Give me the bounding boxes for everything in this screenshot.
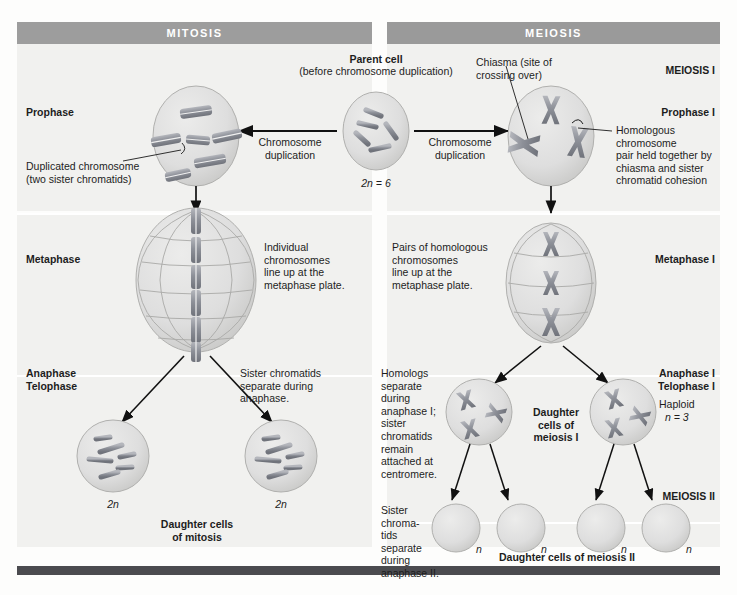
homologous-pair-callout: Homologous chromosome pair held together… [616,124,728,187]
mitosis-daughter-caption: Daughter cells of mitosis [122,518,272,543]
mitosis-prophase-label: Prophase [26,106,74,119]
meiosis1-daughter-caption: Daughter cells of meiosis I [518,406,594,444]
mitosis-metaphase-note: Individual chromosomes line up at the me… [264,241,364,291]
mitosis-anaphase-note: Sister chromatids separate during anapha… [240,367,350,405]
meiosis2-note: Sister chroma- tids separate during anap… [381,504,439,580]
parent-cell-subtitle: (before chromosome duplication) [276,65,476,78]
parent-cell-title: Parent cell [286,53,466,66]
meiosis2-ploidy-1: n [476,543,482,556]
meiosis-metaphase1-note: Pairs of homologous chromosomes line up … [392,241,502,291]
duplication-label-left: Chromosome duplication [248,136,332,161]
meiosis-anaphase1-note: Homologs separate during anaphase I; sis… [381,367,443,480]
haploid-ploidy: n = 3 [665,411,689,424]
diagram-canvas: MITOSIS MEIOSIS [0,0,737,595]
mitosis-metaphase-label: Metaphase [26,253,80,266]
meiosis-anaphase1-label: Anaphase I Telophase I [600,367,715,392]
meiosis-metaphase1-label: Metaphase I [600,253,715,266]
parent-cell-ploidy: 2n = 6 [336,177,416,190]
mitosis-anaphase-label: Anaphase Telophase [26,367,116,392]
meiosis2-ploidy-3: n [621,543,627,556]
chiasma-callout: Chiasma (site of crossing over) [476,56,586,81]
column-header-mitosis: MITOSIS [17,22,372,44]
mitosis-daughter-ploidy-right: 2n [256,498,306,511]
mitosis-metaphase-band [17,213,372,375]
duplication-label-right: Chromosome duplication [416,136,504,161]
meiosis-prophase1-label: Prophase I [600,106,715,119]
duplicated-chromosome-callout: Duplicated chromosome (two sister chroma… [26,160,161,185]
meiosis2-ploidy-4: n [686,543,692,556]
meiosis-metaphase-band [387,213,720,375]
meiosis-one-section-label: MEIOSIS I [600,64,715,77]
meiosis-two-section-label: MEIOSIS II [600,490,715,503]
meiosis2-daughter-caption: Daughter cells of meiosis II [462,551,672,564]
haploid-label: Haploid [659,398,695,411]
meiosis2-ploidy-2: n [541,543,547,556]
footer-rule [17,566,720,575]
column-header-meiosis: MEIOSIS [387,22,720,44]
mitosis-daughter-ploidy-left: 2n [88,498,138,511]
